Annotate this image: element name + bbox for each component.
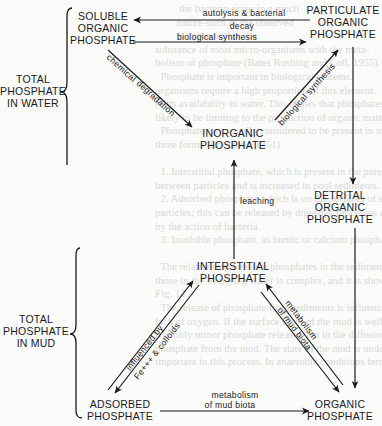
biological-synthesis-diagonal-arrow: biological synthesis: [275, 50, 338, 127]
soluble-organic-phosphate-node: SOLUBLE ORGANIC PHOSPHATE: [70, 10, 136, 46]
svg-text:ORGANIC: ORGANIC: [318, 16, 369, 28]
svg-text:biological synthesis: biological synthesis: [177, 32, 257, 42]
svg-text:biological synthesis: biological synthesis: [276, 61, 337, 127]
adsorbed-phosphate-node: ADSORBED PHOSPHATE: [87, 398, 153, 422]
svg-text:TOTAL: TOTAL: [19, 313, 53, 325]
svg-text:PHOSPHATE: PHOSPHATE: [0, 85, 66, 97]
leaching-arrow: leaching: [234, 160, 274, 259]
chemical-degradation-arrow: chemical degradation: [105, 50, 192, 127]
svg-text:PARTICULATE: PARTICULATE: [307, 4, 380, 16]
mud-metabolism-bottom-arrow: metabolism of mud biota: [160, 390, 309, 411]
particulate-organic-phosphate-node: PARTICULATE ORGANIC PHOSPHATE: [307, 4, 380, 40]
figure-page: the bacteria occur in a much nature-such…: [0, 0, 382, 426]
svg-text:autolysis & bacterial: autolysis & bacterial: [203, 8, 286, 18]
total-phosphate-in-mud-label: TOTAL PHOSPHATE IN MUD: [3, 313, 69, 349]
svg-text:PHOSPHATE: PHOSPHATE: [200, 139, 266, 151]
svg-text:TOTAL: TOTAL: [16, 73, 50, 85]
inorganic-phosphate-node: INORGANIC PHOSPHATE: [200, 127, 266, 151]
svg-text:ADSORBED: ADSORBED: [90, 398, 151, 410]
svg-text:ORGANIC: ORGANIC: [315, 201, 366, 213]
svg-text:PHOSPHATE: PHOSPHATE: [70, 34, 136, 46]
svg-text:PHOSPHATE: PHOSPHATE: [87, 410, 153, 422]
svg-text:SOLUBLE: SOLUBLE: [78, 10, 128, 22]
svg-text:IN MUD: IN MUD: [17, 337, 56, 349]
svg-text:IN WATER: IN WATER: [7, 97, 59, 109]
svg-text:PHOSPHATE: PHOSPHATE: [3, 325, 69, 337]
svg-text:ORGANIC: ORGANIC: [315, 398, 366, 410]
mud-metabolism-diagonal-arrows: metabolism of mud biota: [261, 284, 343, 392]
svg-text:decay: decay: [230, 21, 255, 31]
svg-text:degradation: degradation: [135, 78, 178, 118]
interstitial-phosphate-node: INTERSTITIAL PHOSPHATE: [197, 260, 269, 284]
svg-text:PHOSPHATE: PHOSPHATE: [310, 28, 376, 40]
svg-text:PHOSPHATE: PHOSPHATE: [200, 272, 266, 284]
svg-text:INORGANIC: INORGANIC: [202, 127, 264, 139]
svg-text:metabolism: metabolism: [212, 390, 259, 400]
svg-text:DETRITAL: DETRITAL: [314, 189, 366, 201]
mud-brace: [70, 248, 82, 418]
total-phosphate-in-water-label: TOTAL PHOSPHATE IN WATER: [0, 73, 66, 109]
organic-phosphate-node: ORGANIC PHOSPHATE: [307, 398, 373, 422]
adsorption-exchange-arrows: influenced by Fe+++ & colloids: [108, 281, 199, 393]
biological-synthesis-top-arrow: biological synthesis: [133, 32, 306, 42]
svg-text:of mud biota: of mud biota: [205, 400, 256, 410]
svg-text:PHOSPHATE: PHOSPHATE: [307, 213, 373, 225]
detrital-organic-phosphate-node: DETRITAL ORGANIC PHOSPHATE: [307, 189, 373, 225]
svg-text:PHOSPHATE: PHOSPHATE: [307, 410, 373, 422]
svg-text:leaching: leaching: [240, 196, 274, 206]
svg-text:chemical: chemical: [105, 52, 139, 84]
autolysis-decay-arrow: autolysis & bacterial decay: [134, 8, 310, 31]
phosphate-cycle-diagram: TOTAL PHOSPHATE IN WATER TOTAL PHOSPHATE…: [0, 0, 382, 426]
svg-text:INTERSTITIAL: INTERSTITIAL: [197, 260, 269, 272]
svg-text:ORGANIC: ORGANIC: [78, 22, 129, 34]
